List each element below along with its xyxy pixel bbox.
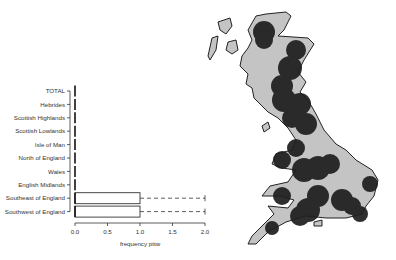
y-tick-label: Scottish Highlands	[14, 114, 65, 121]
y-tick-label: Scottish Lowlands	[15, 127, 65, 134]
y-tick-label: Southwest of England	[5, 208, 66, 215]
x-axis-label: frequency pttw	[120, 240, 161, 247]
y-tick-label: Hebrides	[40, 101, 65, 108]
y-tick-label: Isle of Man	[35, 141, 66, 148]
y-tick-label: Wales	[48, 168, 65, 175]
y-tick-label: TOTAL	[46, 87, 66, 94]
isle-of-man	[262, 122, 270, 132]
isle-of-wight	[314, 220, 322, 226]
box	[75, 206, 140, 217]
y-tick-label: Southeast of England	[6, 194, 66, 201]
x-tick-label: 1.5	[168, 228, 177, 235]
outer-hebrides-south	[208, 36, 218, 60]
boxplot-chart: TOTALHebridesScottish HighlandsScottish …	[0, 0, 215, 260]
outer-hebrides	[218, 18, 232, 34]
x-tick-label: 1.0	[136, 228, 145, 235]
y-tick-label: North of England	[19, 154, 66, 161]
gb-map	[196, 0, 396, 260]
x-tick-label: 0.0	[71, 228, 80, 235]
skye	[226, 40, 238, 54]
x-tick-label: 0.5	[103, 228, 112, 235]
box	[75, 193, 140, 204]
y-tick-label: English Midlands	[18, 181, 65, 188]
